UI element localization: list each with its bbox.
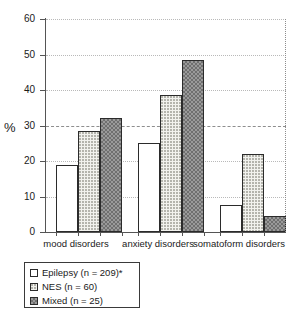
y-tick-0 — [40, 232, 45, 233]
y-tick-label-40: 40 — [5, 85, 35, 95]
x-tick-8 — [220, 232, 221, 236]
y-tick-50 — [40, 55, 45, 56]
bar-nes-mood — [78, 131, 100, 232]
x-tick-0 — [56, 232, 57, 236]
y-tick-10 — [40, 197, 45, 198]
bar-epilepsy-mood — [56, 165, 78, 232]
y-tick-60 — [40, 19, 45, 20]
x-group-label-somatoform: somatoform disorders — [184, 238, 294, 249]
y-tick-label-10: 10 — [5, 192, 35, 202]
bar-nes-somatoform — [242, 154, 264, 232]
bar-mixed-anxiety — [182, 60, 204, 232]
x-tick-10 — [264, 232, 265, 236]
legend-swatch-dots-icon — [30, 283, 38, 291]
y-tick-label-20: 20 — [5, 156, 35, 166]
legend-label-mixed: Mixed (n = 25) — [42, 296, 103, 306]
bar-chart: % 0 10 20 30 40 50 60 — [0, 0, 296, 315]
bar-mixed-mood — [100, 118, 122, 232]
y-tick-label-60: 60 — [5, 14, 35, 24]
legend-item-mixed: Mixed (n = 25) — [30, 294, 135, 307]
x-axis-line — [45, 232, 286, 233]
gridline-60 — [46, 19, 286, 20]
legend-label-nes: NES (n = 60) — [42, 282, 97, 292]
x-tick-7 — [204, 232, 205, 236]
legend: Epilepsy (n = 209)* NES (n = 60) Mixed (… — [24, 262, 140, 308]
x-tick-6 — [182, 232, 183, 236]
y-axis-line — [45, 18, 46, 233]
legend-label-epilepsy: Epilepsy (n = 209)* — [42, 268, 123, 278]
x-tick-2 — [100, 232, 101, 236]
gridline-50 — [46, 55, 286, 56]
y-tick-30 — [40, 126, 45, 127]
x-tick-5 — [160, 232, 161, 236]
gridline-40 — [46, 90, 286, 91]
bar-epilepsy-somatoform — [220, 205, 242, 232]
right-border-dotted — [285, 19, 286, 232]
y-tick-20 — [40, 161, 45, 162]
x-tick-1 — [78, 232, 79, 236]
x-tick-4 — [138, 232, 139, 236]
legend-item-epilepsy: Epilepsy (n = 209)* — [30, 266, 135, 279]
y-tick-label-30: 30 — [5, 121, 35, 131]
bar-epilepsy-anxiety — [138, 143, 160, 232]
legend-swatch-checker-icon — [30, 297, 38, 305]
x-tick-9 — [242, 232, 243, 236]
y-tick-40 — [40, 90, 45, 91]
legend-swatch-empty-icon — [30, 269, 38, 277]
plot-area — [46, 19, 286, 232]
y-tick-label-0: 0 — [5, 227, 35, 237]
bar-nes-anxiety — [160, 95, 182, 232]
legend-item-nes: NES (n = 60) — [30, 280, 135, 293]
y-tick-label-50: 50 — [5, 50, 35, 60]
x-tick-3 — [122, 232, 123, 236]
bar-mixed-somatoform — [264, 216, 286, 232]
